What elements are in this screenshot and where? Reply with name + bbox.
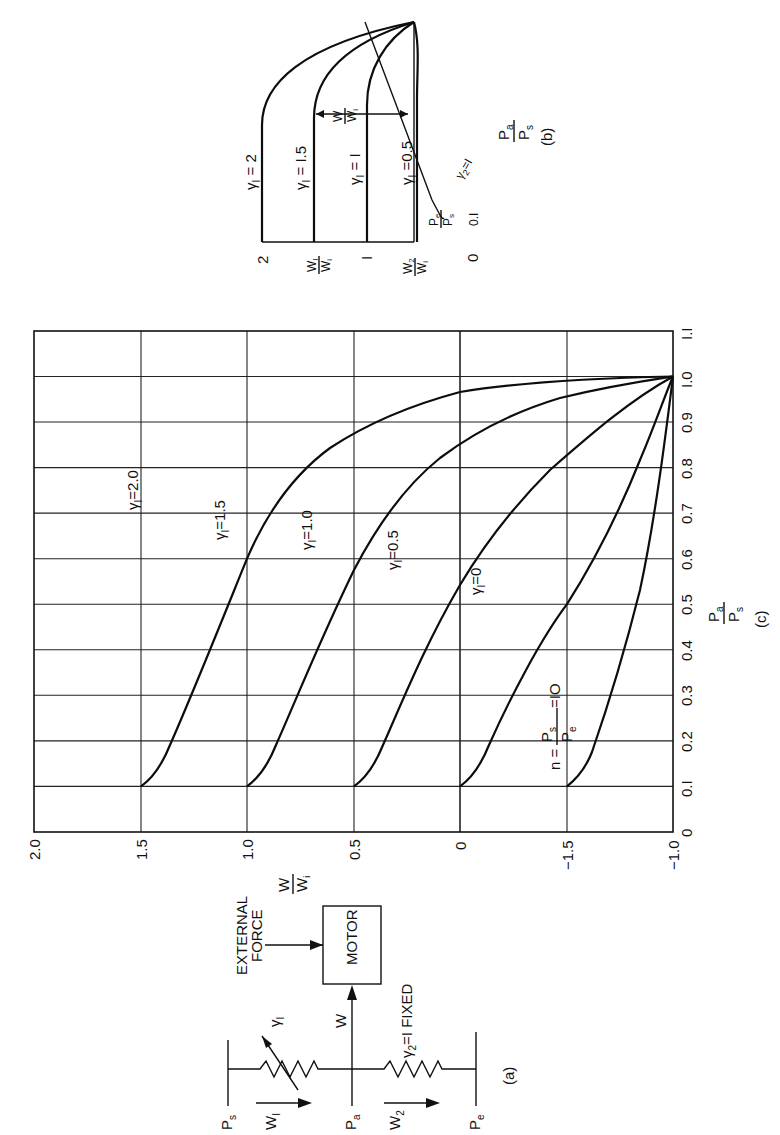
svg-text:2.0: 2.0 bbox=[26, 839, 43, 860]
panel-c-label: (c) bbox=[752, 611, 769, 629]
inset-chart-b: γI = 2 γI = I.5 γI = I γI =0.5 γ2=I W Wi… bbox=[242, 22, 555, 276]
svg-text:0.9: 0.9 bbox=[678, 412, 695, 433]
svg-text:Pa: Pa bbox=[495, 124, 515, 140]
svg-text:0: 0 bbox=[452, 842, 469, 850]
svg-text:0.7: 0.7 bbox=[678, 503, 695, 524]
svg-text:0.5: 0.5 bbox=[678, 594, 695, 615]
svg-text:Ps: Ps bbox=[515, 125, 535, 140]
svg-text:γI=0.5: γI=0.5 bbox=[384, 530, 404, 570]
curve-gamma-2-0 bbox=[141, 377, 673, 787]
main-chart-c: γI=2.0 γI=1.5 γI=1.0 γI=0.5 γI=0 n = Ps … bbox=[26, 327, 769, 894]
svg-text:Wi: Wi bbox=[415, 261, 430, 274]
svg-text:WI: WI bbox=[305, 258, 320, 272]
svg-text:0: 0 bbox=[678, 829, 695, 837]
svg-text:Wi: Wi bbox=[293, 876, 312, 892]
svg-text:0: 0 bbox=[464, 254, 481, 262]
svg-text:−1.5: −1.5 bbox=[559, 840, 576, 870]
svg-text:γI = I: γI = I bbox=[346, 153, 366, 185]
svg-text:n =: n = bbox=[546, 748, 563, 770]
svg-text:I.0: I.0 bbox=[678, 371, 695, 388]
svg-text:0.8: 0.8 bbox=[678, 458, 695, 479]
pa-axis-title: Pa Ps bbox=[705, 602, 745, 624]
svg-text:1.0: 1.0 bbox=[239, 839, 256, 860]
circuit-diagram-a: MOTOR EXTERNAL FORCE Ps WI γI W Pa γ2=I … bbox=[218, 896, 517, 1130]
inset-curve-gamma-2 bbox=[262, 22, 414, 242]
svg-text:0.2: 0.2 bbox=[678, 731, 695, 752]
figure-canvas: γI=2.0 γI=1.5 γI=1.0 γI=0.5 γI=0 n = Ps … bbox=[0, 0, 780, 1135]
inset-load-line-gamma2 bbox=[365, 22, 444, 218]
curve-labels: γI=2.0 γI=1.5 γI=1.0 γI=0.5 γI=0 bbox=[124, 470, 487, 595]
svg-text:0.5: 0.5 bbox=[346, 839, 363, 860]
svg-text:W2: W2 bbox=[401, 258, 416, 274]
svg-text:Pe: Pe bbox=[558, 726, 578, 742]
svg-text:=IO: =IO bbox=[546, 683, 563, 708]
svg-text:Pa: Pa bbox=[705, 606, 725, 622]
svg-text:Wi: Wi bbox=[319, 259, 334, 272]
svg-text:I.I: I.I bbox=[678, 327, 695, 340]
svg-text:W2: W2 bbox=[386, 1110, 406, 1130]
svg-text:−1.0: −1.0 bbox=[665, 840, 682, 870]
svg-text:Wi: Wi bbox=[345, 109, 360, 122]
n-annotation: n = Ps Pe =IO bbox=[538, 683, 578, 770]
svg-text:Pa: Pa bbox=[342, 1114, 362, 1130]
svg-text:0.I: 0.I bbox=[467, 213, 481, 226]
svg-text:γI=1.5: γI=1.5 bbox=[211, 500, 231, 540]
svg-text:γI = I.5: γI = I.5 bbox=[292, 146, 312, 190]
svg-text:FORCE: FORCE bbox=[248, 910, 265, 963]
panel-b-label: (b) bbox=[538, 128, 555, 146]
pa-axis-ticks: 0 0.I 0.2 0.3 0.4 0.5 0.6 0.7 0.8 0.9 I.… bbox=[678, 327, 695, 837]
curves bbox=[141, 377, 673, 787]
svg-text:Ps: Ps bbox=[441, 214, 456, 226]
svg-text:W: W bbox=[275, 877, 292, 892]
panel-a-label: (a) bbox=[500, 1067, 517, 1085]
svg-text:0.6: 0.6 bbox=[678, 549, 695, 570]
curve-gamma-0 bbox=[567, 377, 673, 787]
svg-text:Ps: Ps bbox=[725, 607, 745, 622]
w-axis-ticks: 2.0 1.5 1.0 0.5 0 −1.5 −1.0 bbox=[26, 839, 682, 870]
curve-gamma-1-0 bbox=[354, 377, 673, 787]
svg-text:γI=0: γI=0 bbox=[467, 568, 487, 595]
svg-text:2: 2 bbox=[254, 256, 271, 264]
svg-text:MOTOR: MOTOR bbox=[343, 909, 360, 965]
svg-text:γI: γI bbox=[266, 1017, 286, 1027]
svg-text:γ2=I: γ2=I bbox=[452, 156, 477, 182]
svg-text:γI = 2: γI = 2 bbox=[242, 154, 262, 190]
w-axis-title: W Wi bbox=[275, 874, 312, 894]
svg-text:0.I: 0.I bbox=[678, 780, 695, 797]
svg-text:Pe: Pe bbox=[427, 213, 442, 226]
svg-text:Ps: Ps bbox=[218, 1115, 238, 1130]
svg-text:Pe: Pe bbox=[466, 1114, 486, 1130]
svg-text:γI=1.0: γI=1.0 bbox=[298, 510, 318, 550]
svg-text:I: I bbox=[358, 256, 375, 260]
svg-text:γ2=I FIXED: γ2=I FIXED bbox=[398, 984, 418, 1058]
svg-text:WI: WI bbox=[262, 1113, 282, 1130]
svg-text:γI =0.5: γI =0.5 bbox=[398, 141, 418, 185]
vertical-gridlines bbox=[141, 331, 567, 832]
svg-text:W: W bbox=[332, 1013, 349, 1028]
svg-text:0.3: 0.3 bbox=[678, 685, 695, 706]
svg-text:0.4: 0.4 bbox=[678, 640, 695, 661]
inset-curve-gamma-1-5 bbox=[314, 22, 414, 242]
svg-text:Ps: Ps bbox=[538, 727, 558, 742]
svg-text:1.5: 1.5 bbox=[133, 839, 150, 860]
svg-text:W: W bbox=[331, 110, 345, 122]
